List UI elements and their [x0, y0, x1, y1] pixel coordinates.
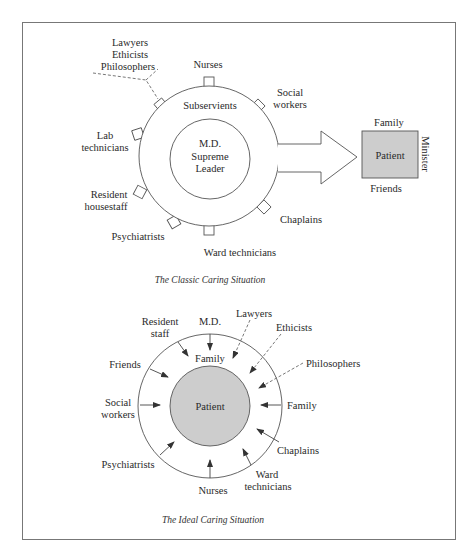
- label-social: Social: [105, 397, 131, 408]
- tab-nurses: [204, 77, 214, 87]
- label-philosophers: Philosophers: [101, 61, 155, 72]
- label-technicians: technicians: [244, 481, 291, 492]
- classic-caption: The Classic Caring Situation: [155, 275, 266, 285]
- label-box-family: Family: [374, 117, 405, 128]
- label-leader: Leader: [195, 163, 225, 174]
- label-technicians: technicians: [81, 142, 128, 153]
- classic-diagram: Lawyers Ethicists Philosophers Nurses So…: [81, 37, 431, 285]
- label-social: Social: [277, 87, 303, 98]
- diagram-canvas: Lawyers Ethicists Philosophers Nurses So…: [0, 0, 474, 557]
- label-resident: Resident: [142, 316, 179, 327]
- label-box-minister: Minister: [420, 136, 431, 172]
- label-workers: workers: [101, 409, 135, 420]
- label-nurses: Nurses: [198, 485, 227, 496]
- label-subservients: Subservients: [183, 100, 237, 111]
- label-lab: Lab: [97, 130, 113, 141]
- label-ethicists: Ethicists: [276, 322, 312, 333]
- label-lawyers: Lawyers: [112, 37, 148, 48]
- label-patient: Patient: [195, 401, 224, 412]
- classic-big-arrow: [278, 131, 357, 184]
- label-family-right: Family: [287, 400, 318, 411]
- label-workers: workers: [273, 99, 307, 110]
- label-ethicists: Ethicists: [112, 49, 148, 60]
- label-chaplains: Chaplains: [280, 214, 322, 225]
- ideal-diagram: Resident staff M.D. Lawyers Ethicists Ph…: [101, 308, 360, 525]
- label-housestaff: housestaff: [85, 201, 128, 212]
- label-chaplains: Chaplains: [277, 445, 319, 456]
- label-md: M.D.: [199, 138, 221, 149]
- label-supreme: Supreme: [191, 151, 229, 162]
- label-lawyers: Lawyers: [236, 308, 272, 319]
- label-staff: staff: [151, 328, 170, 339]
- label-inner-family: Family: [195, 353, 226, 364]
- label-box-friends: Friends: [370, 183, 402, 194]
- tab-ward-technicians: [204, 225, 214, 235]
- ideal-caption: The Ideal Caring Situation: [162, 515, 264, 525]
- label-psychiatrists: Psychiatrists: [111, 231, 164, 242]
- tab-resident-housestaff: [133, 185, 147, 199]
- label-md: M.D.: [199, 316, 221, 327]
- label-friends: Friends: [109, 359, 141, 370]
- label-psychiatrists: Psychiatrists: [101, 459, 154, 470]
- label-box-patient: Patient: [375, 150, 404, 161]
- classic-dashed-connector: [93, 69, 158, 99]
- label-resident: Resident: [91, 189, 128, 200]
- label-ward: Ward: [256, 469, 279, 480]
- label-ward-technicians: Ward technicians: [204, 247, 276, 258]
- label-nurses: Nurses: [193, 59, 222, 70]
- label-philosophers: Philosophers: [306, 358, 360, 369]
